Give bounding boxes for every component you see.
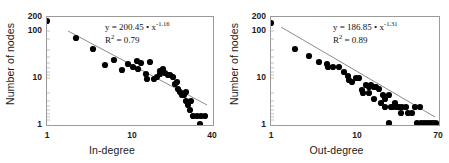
y-axis-ticks-right: 200 100 10 1 bbox=[240, 0, 266, 163]
y-tick-1-left: 1 bbox=[37, 120, 42, 129]
panel-out-degree: Number of nodes 200 100 10 1 bbox=[224, 0, 449, 163]
y-tick-200-left: 200 bbox=[28, 12, 42, 21]
x-tick-1-right: 1 bbox=[269, 131, 274, 140]
r2-superscript-left: 2 bbox=[111, 33, 114, 40]
y-tick-100-right: 100 bbox=[252, 26, 266, 35]
equation-text-left: y = 200.45 • x bbox=[105, 22, 156, 32]
r2-value-right: = 0.89 bbox=[345, 35, 368, 45]
y-axis-ticks-left: 200 100 10 1 bbox=[16, 0, 42, 163]
x-axis-label-right: Out-degree bbox=[224, 144, 449, 156]
y-tick-10-left: 10 bbox=[33, 73, 42, 82]
dual-scatter-figure: Number of nodes 200 100 10 1 bbox=[0, 0, 449, 163]
x-tick-40-left: 40 bbox=[207, 131, 216, 140]
y-minor-ticks-left bbox=[47, 31, 50, 120]
y-minor-ticks-right bbox=[271, 31, 274, 120]
equation-annotation-left: y = 200.45 • x-1.16 R2 = 0.79 bbox=[105, 20, 170, 46]
r2-value-left: = 0.79 bbox=[117, 35, 140, 45]
r2-annotation-left: R2 = 0.79 bbox=[105, 33, 170, 46]
y-tick-100-left: 100 bbox=[28, 26, 42, 35]
equation-annotation-right: y = 186.85 • x-1.31 R2 = 0.89 bbox=[333, 20, 398, 46]
x-axis-label-left: In-degree bbox=[0, 144, 224, 156]
equation-exponent-left: -1.16 bbox=[156, 20, 170, 27]
x-tick-70-right: 70 bbox=[433, 131, 442, 140]
y-tick-10-right: 10 bbox=[257, 73, 266, 82]
x-tick-1-left: 1 bbox=[45, 131, 50, 140]
x-tick-10-left: 10 bbox=[127, 131, 136, 140]
y-tick-1-right: 1 bbox=[261, 120, 266, 129]
r2-annotation-right: R2 = 0.89 bbox=[333, 33, 398, 46]
y-tick-200-right: 200 bbox=[252, 12, 266, 21]
plot-area-left: y = 200.45 • x-1.16 R2 = 0.79 bbox=[46, 16, 214, 126]
equation-text-right: y = 186.85 • x bbox=[333, 22, 384, 32]
panel-in-degree: Number of nodes 200 100 10 1 bbox=[0, 0, 224, 163]
r2-superscript-right: 2 bbox=[339, 33, 342, 40]
equation-exponent-right: -1.31 bbox=[384, 20, 398, 27]
plot-area-right: y = 186.85 • x-1.31 R2 = 0.89 bbox=[270, 16, 440, 126]
x-tick-10-right: 10 bbox=[352, 131, 361, 140]
